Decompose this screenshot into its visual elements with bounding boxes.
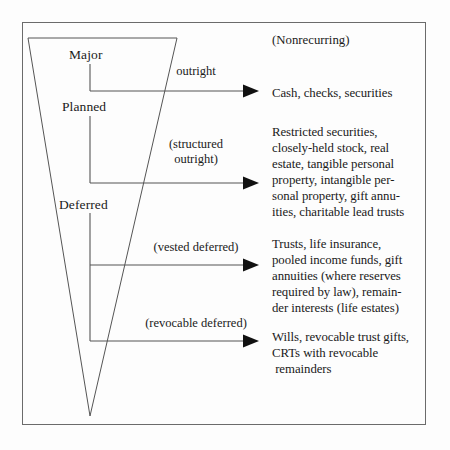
stage-label-major: Major: [69, 47, 103, 63]
inverted-triangle-funnel: [28, 38, 177, 416]
arrow-caption-vested-deferred: (vested deferred): [136, 240, 256, 255]
arrow-revocable-deferred: [90, 335, 259, 348]
result-vested-deferred: Trusts, life insurance, pooled income fu…: [272, 236, 402, 316]
arrow-caption-structured-outright: (structured outright): [141, 137, 251, 167]
arrow-outright: [90, 85, 259, 98]
arrow-vested-deferred: [90, 259, 259, 272]
result-revocable-deferred: Wills, revocable trust gifts, CRTs with …: [272, 329, 409, 377]
stage-label-planned: Planned: [62, 99, 106, 115]
diagram-canvas: Major Planned Deferred outright (structu…: [0, 0, 450, 450]
arrow-caption-revocable-deferred: (revocable deferred): [126, 316, 266, 331]
result-structured-outright: Restricted securities, closely-held stoc…: [272, 124, 404, 220]
result-outright: Cash, checks, securities: [272, 85, 392, 101]
arrow-caption-outright: outright: [146, 64, 246, 79]
arrow-structured-outright: [90, 177, 259, 190]
nonrecurring-note: (Nonrecurring): [272, 33, 349, 49]
stage-label-deferred: Deferred: [59, 197, 108, 213]
